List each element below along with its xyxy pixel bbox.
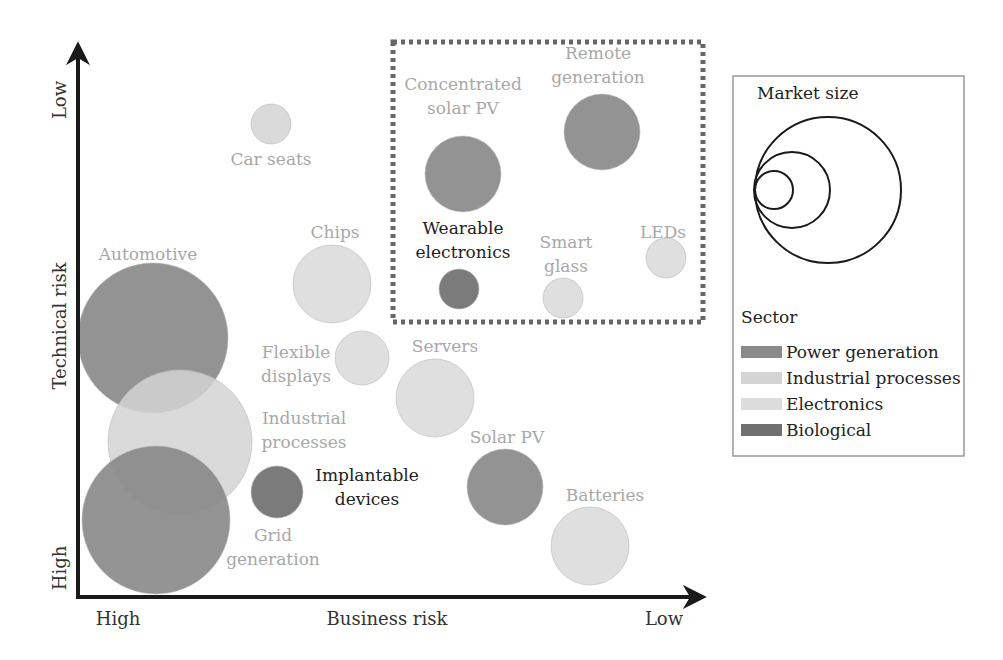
legend-label-industrial-processes: Industrial processes — [786, 368, 961, 388]
bubble-batteries — [551, 507, 629, 585]
label-remote-generation: Remotegeneration — [551, 43, 645, 87]
legend-swatch-biological — [741, 424, 782, 436]
bubble-concentrated-solar-pv — [425, 136, 501, 212]
bubble-wearable-electronics — [439, 269, 479, 309]
legend-sector-title: Sector — [741, 307, 798, 327]
legend-swatch-power-generation — [741, 346, 782, 358]
legend-swatch-electronics — [741, 398, 782, 410]
label-leds: LEDs — [640, 222, 686, 242]
label-chips: Chips — [311, 222, 360, 242]
label-car-seats: Car seats — [230, 149, 311, 169]
bubble-smart-glass — [543, 278, 583, 318]
label-automotive: Automotive — [98, 244, 198, 264]
y-axis-title: Technical risk — [49, 261, 70, 389]
label-industrial-processes: Industrialprocesses — [261, 408, 346, 452]
bubble-flexible-displays — [335, 331, 389, 385]
legend-label-electronics: Electronics — [786, 394, 883, 414]
legend-market-size-title: Market size — [757, 83, 858, 103]
bubble-solar-pv — [467, 449, 543, 525]
label-wearable-electronics: Wearableelectronics — [416, 218, 511, 262]
y-tick-bottom: High — [49, 545, 70, 590]
bubble-chips — [293, 245, 371, 323]
legend: Market size Sector Power generationIndus… — [733, 76, 964, 456]
y-tick-top: Low — [49, 80, 70, 119]
bubble-grid-generation — [82, 446, 230, 594]
label-batteries: Batteries — [566, 485, 645, 505]
label-implantable-devices: Implantabledevices — [315, 465, 419, 509]
x-tick-left: High — [96, 608, 141, 629]
legend-swatch-industrial-processes — [741, 372, 782, 384]
bubble-remote-generation — [564, 94, 640, 170]
bubbles-layer — [78, 94, 686, 594]
legend-label-power-generation: Power generation — [786, 342, 939, 362]
bubble-leds — [646, 238, 686, 278]
bubble-chart: Car seatsChipsFlexibledisplaysServersAut… — [0, 0, 1003, 660]
label-servers: Servers — [412, 336, 478, 356]
label-concentrated-solar-pv: Concentratedsolar PV — [404, 74, 522, 118]
bubble-implantable-devices — [251, 466, 303, 518]
bubble-servers — [396, 359, 474, 437]
x-axis-title: Business risk — [327, 608, 449, 629]
bubble-car-seats — [251, 104, 291, 144]
label-smart-glass: Smartglass — [540, 232, 593, 276]
label-flexible-displays: Flexibledisplays — [261, 342, 331, 386]
label-grid-generation: Gridgeneration — [226, 525, 320, 569]
legend-label-biological: Biological — [786, 420, 871, 440]
label-solar-pv: Solar PV — [470, 427, 545, 447]
x-tick-right: Low — [645, 608, 684, 629]
